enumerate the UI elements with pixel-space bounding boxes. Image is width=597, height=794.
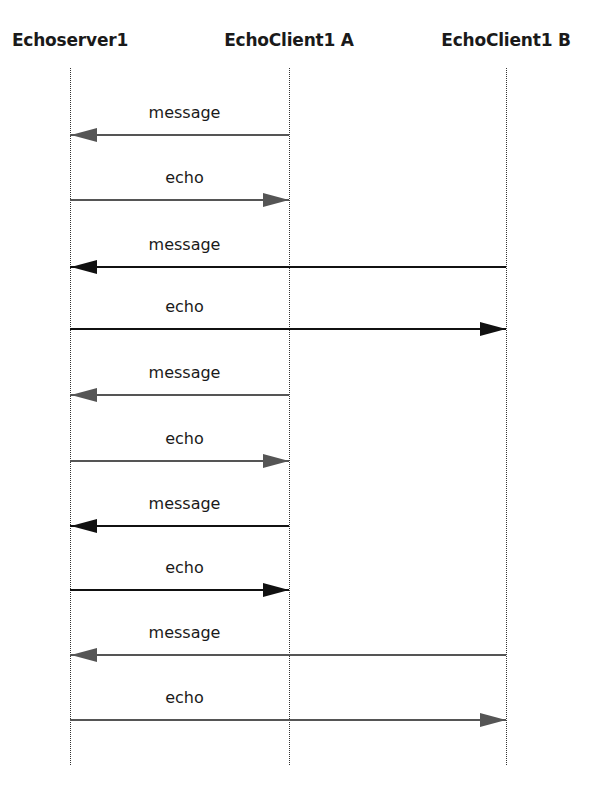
arrowhead-right-icon <box>480 322 506 336</box>
message-label: message <box>149 363 221 382</box>
arrowhead-left-icon <box>71 648 97 662</box>
arrow-line <box>70 328 506 330</box>
arrow-line <box>70 525 289 527</box>
arrow-line <box>70 199 289 201</box>
message-label: message <box>149 235 221 254</box>
arrowhead-right-icon <box>263 454 289 468</box>
message-label: echo <box>165 558 204 577</box>
arrowhead-right-icon <box>480 713 506 727</box>
message-label: echo <box>165 168 204 187</box>
arrow-line <box>70 394 289 396</box>
arrow-line <box>70 654 506 656</box>
participant-header-clientB: EchoClient1 B <box>441 30 570 50</box>
message-label: message <box>149 103 221 122</box>
lifeline-clientA <box>289 68 290 765</box>
message-label: echo <box>165 297 204 316</box>
arrow-line <box>70 589 289 591</box>
arrow-line <box>70 460 289 462</box>
arrowhead-left-icon <box>71 260 97 274</box>
arrowhead-left-icon <box>71 519 97 533</box>
arrow-line <box>70 134 289 136</box>
message-label: echo <box>165 688 204 707</box>
message-label: message <box>149 623 221 642</box>
participant-header-server: Echoserver1 <box>12 30 128 50</box>
participant-header-clientA: EchoClient1 A <box>224 30 354 50</box>
message-label: echo <box>165 429 204 448</box>
arrow-line <box>70 266 506 268</box>
arrowhead-left-icon <box>71 128 97 142</box>
lifeline-clientB <box>506 68 507 765</box>
message-label: message <box>149 494 221 513</box>
arrowhead-left-icon <box>71 388 97 402</box>
arrowhead-right-icon <box>263 583 289 597</box>
arrow-line <box>70 719 506 721</box>
arrowhead-right-icon <box>263 193 289 207</box>
